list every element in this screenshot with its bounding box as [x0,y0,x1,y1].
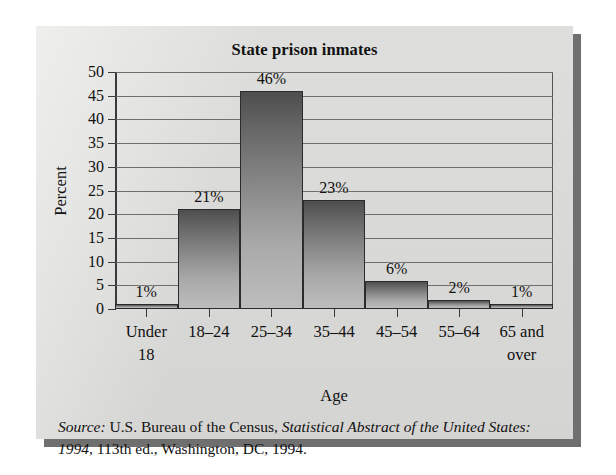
x-category-line: 65 and [499,321,543,344]
x-category-line: 45–54 [376,321,417,344]
bar [178,209,241,309]
y-axis-tick-label: 10 [88,253,104,271]
y-axis-tick [108,309,116,310]
bar-value-label: 21% [194,188,223,206]
y-axis-tick [108,262,116,263]
x-axis-title: Age [115,386,553,406]
bar [240,91,303,309]
y-axis-title: Percent [50,72,72,309]
bar-value-label: 23% [319,179,348,197]
x-category-label: 55–64 [439,321,480,344]
gridline [115,167,553,168]
y-axis-tick-label: 20 [88,205,104,223]
y-axis-tick-label: 50 [88,63,104,81]
bar-value-label: 1% [136,283,157,301]
bar [365,281,428,309]
y-axis-title-text: Percent [51,166,71,215]
gridline [115,143,553,144]
x-category-label: 25–34 [251,321,292,344]
y-axis-tick [108,167,116,168]
x-category-label: 35–44 [313,321,354,344]
y-axis-tick-label: 5 [96,276,104,294]
x-axis-tick [522,309,523,317]
y-axis-tick [108,285,116,286]
y-axis-tick-label: 40 [88,110,104,128]
x-category-line: 35–44 [313,321,354,344]
figure-root: State prison inmates Percent 05101520253… [0,0,616,475]
x-category-line: over [499,344,543,367]
bar [428,300,491,309]
x-category-label: 45–54 [376,321,417,344]
gridline [115,96,553,97]
bar-value-label: 46% [257,70,286,88]
bar [303,200,366,309]
y-axis-tick [108,119,116,120]
source-italic-a: Statistical Abstract of the [282,418,439,435]
x-category-label: 18–24 [188,321,229,344]
plot-area: 051015202530354045501%Under1821%18–2446%… [115,72,553,309]
y-axis-tick-label: 35 [88,134,104,152]
y-axis-tick-label: 25 [88,182,104,200]
y-axis-tick [108,96,116,97]
source-text-b: , 113th ed., Washington, DC, 1994. [89,440,307,457]
x-category-line: 18–24 [188,321,229,344]
x-axis-tick [459,309,460,317]
x-axis-tick [271,309,272,317]
y-axis-tick-label: 0 [96,300,104,318]
y-axis-tick-label: 45 [88,87,104,105]
gridline [115,119,553,120]
x-category-line: 18 [126,344,167,367]
x-axis-tick [146,309,147,317]
x-axis-tick [334,309,335,317]
x-axis-tick [397,309,398,317]
x-category-line: Under [126,321,167,344]
source-note: Source: U.S. Bureau of the Census, Stati… [58,416,558,460]
figure-panel: State prison inmates Percent 05101520253… [36,26,573,439]
bar-value-label: 1% [511,283,532,301]
x-category-label: Under18 [126,321,167,367]
bar-value-label: 6% [386,260,407,278]
source-text-a: U.S. Bureau of the Census, [106,418,282,435]
x-category-label: 65 andover [499,321,543,367]
y-axis-tick [108,72,116,73]
gridline [115,72,553,73]
chart-title: State prison inmates [36,40,573,60]
bar-value-label: 2% [448,279,469,297]
x-category-line: 25–34 [251,321,292,344]
x-axis-tick [209,309,210,317]
y-axis-tick [108,191,116,192]
y-axis-tick-label: 15 [88,229,104,247]
y-axis-tick [108,238,116,239]
source-prefix: Source: [58,418,106,435]
y-axis-tick [108,214,116,215]
x-category-line: 55–64 [439,321,480,344]
y-axis-tick-label: 30 [88,158,104,176]
y-axis-tick [108,143,116,144]
